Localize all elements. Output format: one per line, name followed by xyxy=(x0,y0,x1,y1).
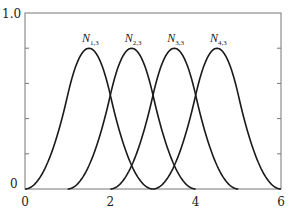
x-tick-label: 6 xyxy=(277,195,285,209)
basis-curve xyxy=(68,48,196,189)
y-tick-label-top: 1.0 xyxy=(2,7,21,21)
basis-curves xyxy=(25,48,281,189)
basis-curve xyxy=(110,48,238,189)
x-axis-tick-labels: 0246 xyxy=(21,195,285,209)
series-labels: N1,3N2,3N3,3N4,3 xyxy=(81,31,227,47)
series-label: N4,3 xyxy=(209,31,227,47)
x-tick-label: 4 xyxy=(192,195,200,209)
series-label: N3,3 xyxy=(166,31,184,47)
basis-curve xyxy=(25,48,153,189)
series-label: N2,3 xyxy=(124,31,142,47)
plot-frame xyxy=(25,13,281,189)
y-axis-ticks xyxy=(25,48,281,154)
y-tick-label-bottom: 0 xyxy=(10,177,18,191)
x-tick-label: 0 xyxy=(21,195,29,209)
basis-curve xyxy=(153,48,281,189)
series-label: N1,3 xyxy=(81,31,99,47)
bspline-basis-chart: N1,3N2,3N3,3N4,3 1.0 0 0246 xyxy=(0,0,294,215)
x-tick-label: 2 xyxy=(107,195,115,209)
